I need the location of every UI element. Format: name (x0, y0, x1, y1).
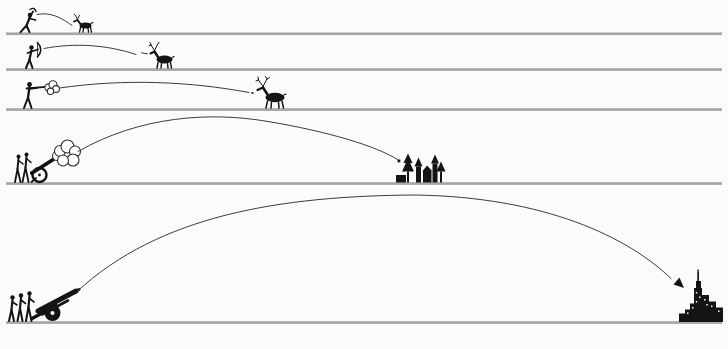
cannon-smoke-icon (53, 140, 81, 166)
cannonball-trajectory (78, 117, 398, 160)
city-skyline-icon (679, 270, 723, 322)
projectile-range-diagram (0, 0, 728, 349)
cannon-crew-icon (15, 153, 31, 183)
thrown-spear-trajectory (37, 14, 72, 26)
village-icon (396, 154, 446, 183)
musket-ball-icon (251, 92, 253, 94)
ground-line-4 (6, 182, 722, 185)
shell-arrowhead-icon (674, 278, 685, 289)
row-4-scene (6, 117, 722, 185)
musketeer-icon (24, 82, 46, 108)
row-5-scene (6, 195, 723, 324)
howitzer-icon (32, 290, 79, 322)
arrow-trajectory (44, 45, 136, 54)
row-1-scene (6, 8, 722, 35)
row-2-scene (6, 42, 722, 71)
field-cannon-icon (30, 159, 54, 182)
ground-line-3 (6, 108, 722, 111)
musket-smoke-icon (45, 81, 59, 95)
elk-icon (256, 77, 286, 109)
deer-icon (149, 42, 174, 68)
ground-line-1 (6, 32, 722, 35)
artillery-shell-trajectory (77, 195, 671, 292)
musket-ball-trajectory (60, 82, 250, 92)
diagram-svg (0, 0, 728, 349)
howitzer-crew-icon (9, 291, 34, 321)
archer-icon (26, 43, 41, 69)
arrow-in-flight-icon (142, 53, 148, 54)
cannonball-icon (398, 160, 401, 163)
spear-thrower-icon (21, 8, 37, 32)
row-3-scene (6, 77, 722, 111)
antelope-icon (74, 14, 93, 32)
ground-line-2 (6, 68, 722, 71)
ground-line-5 (6, 321, 722, 324)
